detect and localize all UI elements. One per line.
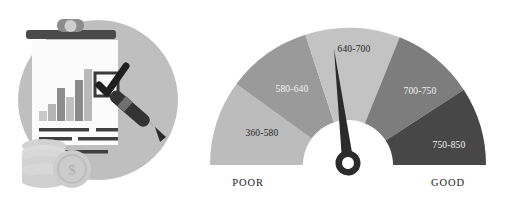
gauge-label-580-640: 580-640 xyxy=(275,84,308,94)
gauge-end-label-poor: POOR xyxy=(232,177,264,188)
chart-bar xyxy=(66,97,74,121)
gauge-svg: 360-580 580-640 640-700 700-750 750-850 … xyxy=(200,0,517,200)
gauge-label-700-750: 700-750 xyxy=(403,86,436,96)
text-line xyxy=(78,137,118,141)
dollar-sign-icon: $ xyxy=(68,162,76,178)
gauge-label-360-580: 360-580 xyxy=(245,128,278,138)
text-line xyxy=(39,128,89,132)
credit-report-illustration: $ xyxy=(0,0,200,200)
credit-score-gauge: 360-580 580-640 640-700 700-750 750-850 … xyxy=(200,0,517,200)
chart-bar xyxy=(48,104,56,121)
gauge-end-label-good: GOOD xyxy=(431,177,465,188)
text-line xyxy=(96,128,118,132)
illustration-svg: $ xyxy=(0,0,200,200)
chart-bar xyxy=(39,111,47,121)
chart-bar xyxy=(84,69,92,121)
credit-score-infographic: $ 360-580 5 xyxy=(0,0,517,200)
gauge-label-750-850: 750-850 xyxy=(432,140,465,150)
chart-bar xyxy=(57,88,65,121)
gauge-label-640-700: 640-700 xyxy=(337,44,370,54)
chart-bar xyxy=(75,80,83,121)
clipboard-clip-knob xyxy=(65,20,77,32)
